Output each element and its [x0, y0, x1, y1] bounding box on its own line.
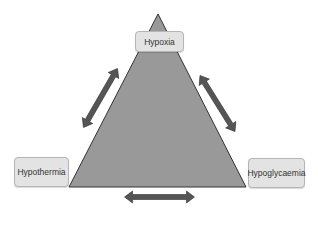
node-hypoglycaemia: Hypoglycaemia: [248, 158, 305, 188]
node-hypothermia: Hypothermia: [14, 157, 69, 187]
node-hypoxia: Hypoxia: [135, 31, 184, 52]
double-arrow-bottom-icon: [125, 191, 195, 203]
